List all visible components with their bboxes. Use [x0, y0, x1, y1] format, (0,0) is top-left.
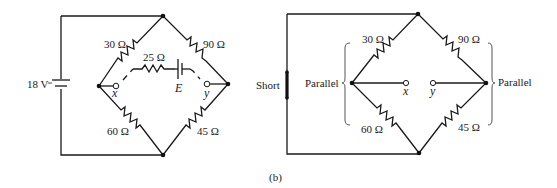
node-top	[161, 14, 166, 19]
resistor-60-ohm-b	[352, 83, 419, 153]
label-30-ohm: 30 Ω	[104, 38, 126, 50]
parallel-right-brace	[488, 43, 495, 125]
label-60-ohm-b: 60 Ω	[361, 123, 383, 135]
label-y: y	[203, 86, 210, 100]
right-bridge-circuit: Short Parallel Parallel 30 Ω 90 Ω x y 60…	[256, 12, 532, 156]
resistor-45-ohm	[163, 84, 228, 155]
label-45-ohm: 45 Ω	[197, 125, 219, 137]
label-30-ohm-b: 30 Ω	[362, 33, 384, 45]
circuit-figure: 18 V 30 Ω 90 Ω 25 Ω E x y 60 Ω 45 Ω	[0, 0, 557, 188]
thevenin-left-dashed-lead	[123, 69, 133, 80]
resistor-30-ohm-b	[352, 14, 418, 83]
label-e: E	[174, 81, 183, 95]
battery-18v-icon	[52, 80, 70, 86]
source-voltage-label: 18 V	[27, 78, 49, 90]
short-label: Short	[256, 79, 280, 91]
label-x-b: x	[402, 84, 409, 98]
thevenin-right-dashed-lead	[190, 69, 200, 79]
label-y-b: y	[429, 84, 436, 98]
resistor-90-ohm-b	[418, 14, 486, 83]
battery-e-icon	[175, 59, 190, 79]
resistor-60-ohm	[99, 86, 163, 155]
label-25-ohm: 25 Ω	[143, 51, 165, 63]
parallel-right-label: Parallel	[498, 76, 532, 88]
label-60-ohm: 60 Ω	[107, 125, 129, 137]
node-left	[97, 84, 102, 89]
label-45-ohm-b: 45 Ω	[458, 121, 480, 133]
label-x: x	[111, 86, 118, 100]
figure-label: (b)	[269, 171, 282, 184]
parallel-left-brace	[342, 43, 350, 125]
node-right	[226, 82, 231, 87]
label-90-ohm: 90 Ω	[203, 38, 225, 50]
resistor-90-ohm	[163, 16, 228, 84]
node-bottom	[161, 153, 166, 158]
left-bridge-circuit: 18 V 30 Ω 90 Ω 25 Ω E x y 60 Ω 45 Ω	[27, 14, 230, 158]
parallel-left-label: Parallel	[305, 77, 339, 89]
resistor-25-ohm	[133, 65, 175, 72]
label-90-ohm-b: 90 Ω	[458, 33, 480, 45]
